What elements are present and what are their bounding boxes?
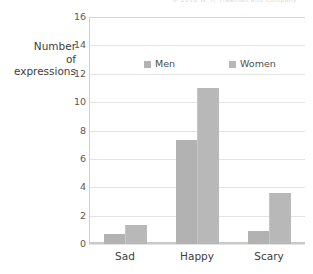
bar-group-scary: [233, 17, 305, 244]
chart-plot-area: MenWomen: [89, 17, 305, 244]
y-axis-tick-label: 4: [80, 182, 86, 192]
y-axis-tick-labels: 0246810121416: [66, 17, 86, 244]
publisher-credit: © 2010 W. H. Freeman and Company: [172, 0, 297, 4]
x-axis-category-labels: SadHappyScary: [89, 250, 305, 266]
bar-series-layer: [89, 17, 305, 244]
y-axis-tick-label: 6: [80, 154, 86, 164]
y-axis-tick-label: 8: [80, 126, 86, 136]
bar-scary-women[interactable]: [269, 193, 291, 244]
bar-group-sad: [89, 17, 161, 244]
bar-sad-men[interactable]: [104, 234, 125, 244]
x-axis-label-scary: Scary: [254, 250, 283, 262]
y-axis-tick-label: 12: [74, 69, 86, 79]
bar-scary-men[interactable]: [248, 231, 269, 244]
y-axis-tick-label: 0: [80, 239, 86, 249]
y-axis-title-line-2: of: [0, 53, 76, 66]
bar-sad-women[interactable]: [125, 225, 147, 244]
gridline: [89, 244, 305, 245]
y-axis-title: Number of expressions: [0, 40, 76, 78]
x-axis-label-sad: Sad: [115, 250, 135, 262]
y-axis-tick-label: 14: [74, 40, 86, 50]
bar-happy-men[interactable]: [176, 140, 197, 244]
y-axis-tick-label: 2: [80, 211, 86, 221]
y-axis-title-line-1: Number: [0, 40, 76, 53]
y-axis-tick-label: 10: [74, 97, 86, 107]
bar-group-happy: [161, 17, 233, 244]
y-axis-tick-label: 16: [74, 12, 86, 22]
x-axis-label-happy: Happy: [180, 250, 214, 262]
y-axis-title-line-3: expressions: [0, 65, 76, 78]
bar-happy-women[interactable]: [197, 88, 219, 244]
